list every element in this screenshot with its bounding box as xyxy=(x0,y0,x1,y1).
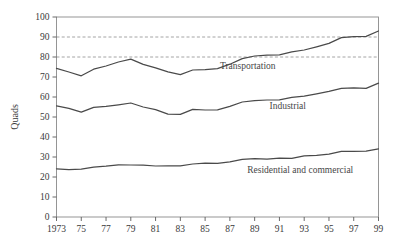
series-line-transportation xyxy=(57,31,379,76)
y-axis-title-text: Quads xyxy=(9,104,20,130)
y-tick-label: 80 xyxy=(40,52,50,62)
x-tick-label: 77 xyxy=(101,224,111,234)
y-tick-label: 60 xyxy=(40,92,50,102)
x-tick-label: 93 xyxy=(299,224,309,234)
annotation-label: Industrial xyxy=(270,101,307,111)
y-tick-label: 10 xyxy=(40,192,50,202)
y-tick-label: 70 xyxy=(40,72,50,82)
chart-figure: 0102030405060708090100 19737577798183858… xyxy=(0,0,400,248)
x-tick-label: 85 xyxy=(200,224,210,234)
line-chart: 0102030405060708090100 19737577798183858… xyxy=(0,0,400,248)
reference-lines xyxy=(57,37,379,57)
x-tick-label: 75 xyxy=(77,224,87,234)
annotation-label: Transportation xyxy=(220,61,276,71)
annotation-label: Residential and commercial xyxy=(247,165,353,175)
y-tick-label: 20 xyxy=(40,172,50,182)
x-tick-label: 79 xyxy=(126,224,136,234)
x-tick-label: 95 xyxy=(324,224,334,234)
x-tick-label: 81 xyxy=(151,224,161,234)
y-axis-ticks: 0102030405060708090100 xyxy=(35,12,56,222)
x-axis-ticks: 197375777981838587899193959799 xyxy=(47,217,384,234)
data-series xyxy=(57,31,379,170)
plot-frame xyxy=(57,17,379,217)
y-axis-title: Quads xyxy=(9,104,20,130)
y-tick-label: 40 xyxy=(40,132,50,142)
x-tick-label: 97 xyxy=(349,224,359,234)
plot-border xyxy=(57,17,379,217)
x-tick-label: 1973 xyxy=(47,224,66,234)
y-tick-label: 100 xyxy=(35,12,50,22)
x-tick-label: 87 xyxy=(225,224,235,234)
y-tick-label: 0 xyxy=(45,212,50,222)
y-tick-label: 30 xyxy=(40,152,50,162)
series-line-industrial xyxy=(57,83,379,114)
y-tick-label: 50 xyxy=(40,112,50,122)
x-tick-label: 99 xyxy=(374,224,384,234)
x-tick-label: 89 xyxy=(250,224,260,234)
x-tick-label: 83 xyxy=(176,224,186,234)
x-tick-label: 91 xyxy=(275,224,285,234)
y-tick-label: 90 xyxy=(40,32,50,42)
